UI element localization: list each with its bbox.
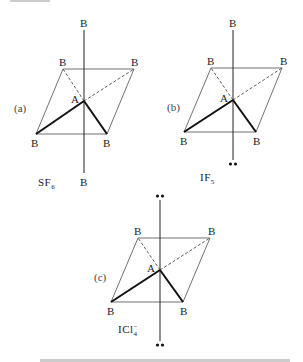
- lone-pair-bottom: [229, 162, 237, 165]
- formula: ICl4−: [118, 323, 138, 338]
- ligand-front-left: B: [31, 137, 38, 149]
- ligand-back-right: B: [131, 56, 138, 68]
- ligand-front-right: B: [103, 137, 110, 149]
- molecular-geometry-diagram: B B B A B B B (a) SF6 B B B A B B (b) IF…: [0, 0, 303, 362]
- ligand-back-right: B: [208, 225, 215, 237]
- central-atom: A: [71, 93, 79, 105]
- ligand-front-left: B: [180, 135, 187, 147]
- back-bond-right: [84, 69, 134, 101]
- formula: SF6: [38, 176, 55, 191]
- panel-b: B B B A B B (b) IF5: [167, 17, 287, 186]
- central-atom: A: [220, 92, 228, 104]
- formula: IF5: [200, 171, 215, 186]
- front-bond-right: [160, 270, 183, 302]
- cropped-text-top: [10, 0, 50, 2]
- back-bond-right: [233, 68, 282, 100]
- panel-label: (c): [94, 271, 107, 284]
- back-bond-right: [160, 238, 210, 270]
- ligand-front-left: B: [107, 305, 114, 317]
- front-bond-right: [84, 101, 107, 134]
- ligand-back-left: B: [207, 55, 214, 67]
- ligand-back-right: B: [280, 55, 287, 67]
- panel-label: (b): [167, 101, 180, 114]
- lone-pair-bottom: [156, 343, 164, 346]
- panel-a: B B B A B B B (a) SF6: [14, 17, 138, 191]
- central-atom: A: [147, 262, 155, 274]
- front-bond-right: [233, 100, 256, 132]
- ligand-front-right: B: [253, 135, 260, 147]
- ligand-top: B: [229, 17, 236, 29]
- panel-label: (a): [14, 102, 27, 115]
- panel-c: B B A B B (c) ICl4−: [94, 194, 215, 346]
- ligand-bottom: B: [80, 176, 87, 188]
- ligand-front-right: B: [180, 305, 187, 317]
- ligand-back-left: B: [134, 225, 141, 237]
- front-bond-left: [184, 100, 233, 132]
- ligand-top: B: [80, 17, 87, 29]
- lone-pair-top: [156, 194, 164, 197]
- front-bond-left: [111, 270, 160, 302]
- ligand-back-left: B: [59, 56, 66, 68]
